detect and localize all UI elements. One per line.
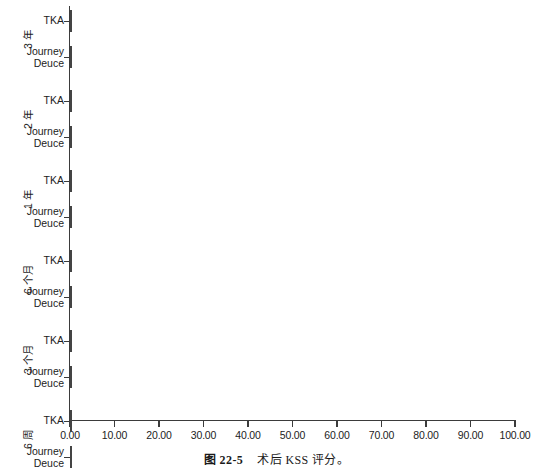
group-label-3: 6 个月 (4, 259, 50, 299)
bar-journey (70, 126, 491, 148)
group-label-4: 3 个月 (4, 339, 50, 379)
figure-kss-chart: 0.0010.0020.0030.0040.0050.0060.0070.008… (0, 0, 553, 475)
caption-figure-number: 图 22-5 (204, 453, 243, 467)
bar-journey (70, 46, 486, 68)
bar-fill (70, 46, 72, 68)
group-label-2: 1 年 (4, 179, 50, 219)
bar-tka (70, 90, 448, 112)
bar-tka (70, 410, 426, 432)
bar-fill (70, 170, 72, 192)
group-label-text: 6 周 (19, 430, 34, 449)
group-label-text: 2 年 (19, 110, 34, 129)
bar-journey (70, 286, 477, 308)
bar-journey (70, 206, 482, 228)
bar-fill (70, 90, 72, 112)
group-label-text: 1 年 (19, 190, 34, 209)
bar-fill (70, 366, 72, 388)
x-axis-tick (470, 421, 471, 427)
bar-fill (70, 126, 72, 148)
group-label-0: 3 年 (4, 19, 50, 59)
bar-fill (70, 250, 72, 272)
figure-caption: 图 22-5术后 KSS 评分。 (0, 450, 553, 468)
caption-text: 术后 KSS 评分。 (257, 453, 349, 467)
x-axis-tick-label: 90.00 (458, 429, 483, 441)
group-label-text: 3 年 (19, 30, 34, 49)
group-label-text: 6 个月 (19, 265, 34, 294)
bar-fill (70, 410, 72, 432)
bar-fill (70, 330, 72, 352)
bar-journey (70, 366, 455, 388)
bar-tka (70, 250, 457, 272)
x-axis-tick (514, 421, 515, 427)
bar-fill (70, 10, 72, 32)
bar-tka (70, 330, 442, 352)
x-axis-tick-label: 100.00 (500, 429, 531, 441)
bar-tka (70, 10, 486, 32)
bar-tka (70, 170, 486, 192)
group-label-1: 2 年 (4, 99, 50, 139)
group-label-text: 3 个月 (19, 345, 34, 374)
bar-fill (70, 286, 72, 308)
y-axis-tick-labels: TKAJourney DeuceTKAJourney DeuceTKAJourn… (0, 0, 64, 475)
bar-fill (70, 206, 72, 228)
